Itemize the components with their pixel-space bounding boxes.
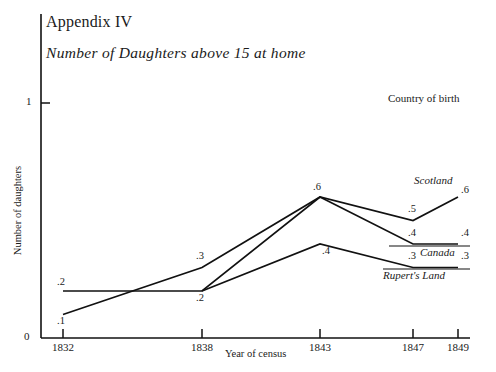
x-tick-label-1847: 1847 (402, 341, 424, 353)
point-label-canada-1849: .4 (461, 227, 469, 238)
point-label-scotland-1838: .3 (196, 250, 204, 261)
point-label-scotland-1847: .5 (408, 203, 416, 214)
x-tick-label-1832: 1832 (52, 341, 74, 353)
x-axis-title: Year of census (225, 348, 286, 359)
series-line-scotland (63, 197, 458, 315)
point-label-rupert-1849: .3 (461, 250, 469, 261)
x-tick-label-1849: 1849 (447, 341, 469, 353)
x-tick-label-1843: 1843 (309, 341, 331, 353)
point-label-scotland-1849: .6 (461, 184, 469, 195)
point-label-canada-1838: .2 (196, 292, 204, 303)
point-label-canada-1832: .2 (57, 276, 65, 287)
y-tick-label-1: 1 (26, 95, 32, 107)
chart-figure: Appendix IV Number of Daughters above 15… (0, 0, 496, 372)
point-label-canada-1847: .4 (408, 227, 416, 238)
series-label-canada: Canada (420, 246, 455, 258)
x-tick-label-1838: 1838 (191, 341, 213, 353)
series-label-scotland: Scotland (414, 174, 453, 186)
chart-svg (0, 0, 496, 372)
y-axis-title: Number of daughters (12, 146, 23, 276)
plot-area (0, 0, 496, 372)
point-label-rupert-1843: .4 (322, 245, 330, 256)
point-label-rupert-1847: .3 (408, 250, 416, 261)
series-label-rupert-land: Rupert's Land (383, 269, 445, 281)
y-tick-label-0: 0 (24, 330, 30, 342)
point-label-scotland-1832: .1 (57, 315, 65, 326)
point-label-peak-1843: .6 (313, 181, 321, 192)
